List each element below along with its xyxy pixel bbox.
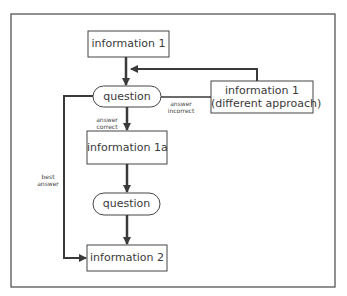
label-information-2: information 2 bbox=[87, 251, 167, 264]
edge-label-answer-incorrect-1: answer bbox=[166, 100, 196, 107]
outer-frame bbox=[11, 14, 335, 287]
label-information-1a: information 1a bbox=[87, 141, 167, 154]
edge-label-answer-incorrect-2: incorrect bbox=[166, 107, 196, 114]
flowchart-canvas bbox=[0, 0, 347, 296]
edge-label-best-answer-1: best bbox=[34, 173, 62, 180]
label-information-1: information 1 bbox=[88, 37, 169, 50]
label-different-approach-line1: information 1 bbox=[211, 84, 313, 97]
edge-label-answer-correct-2: correct bbox=[93, 123, 121, 130]
edge-label-answer-correct-1: answer bbox=[93, 116, 121, 123]
label-different-approach-line2: (different approach) bbox=[211, 97, 313, 110]
edge-best-answer bbox=[64, 96, 93, 258]
edge-different-approach-to-question bbox=[131, 69, 257, 81]
edge-label-best-answer-2: answer bbox=[34, 180, 62, 187]
label-question-1: question bbox=[93, 90, 161, 103]
label-question-2: question bbox=[93, 197, 160, 210]
